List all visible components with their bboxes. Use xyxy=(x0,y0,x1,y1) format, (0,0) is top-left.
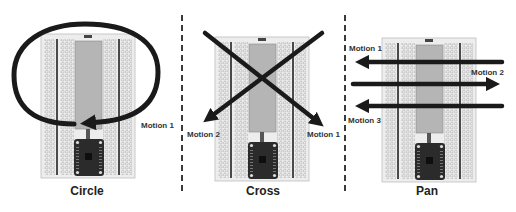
panel-cross-graphic xyxy=(205,33,322,181)
figure-graphics xyxy=(0,0,516,212)
circle-motion-1-label: Motion 1 xyxy=(141,121,174,130)
panel-divider-2 xyxy=(344,15,346,191)
cross-motion-1-label: Motion 1 xyxy=(307,130,340,139)
pan-motion-2-label: Motion 2 xyxy=(471,68,504,77)
cross-motion-2-label: Motion 2 xyxy=(187,130,220,139)
breadboard-circle xyxy=(41,34,135,178)
gesture-motion-figure: Motion 1 Circle Motion 1 Motion 2 Cross … xyxy=(0,0,516,212)
breadboard-pan xyxy=(382,38,476,182)
pan-motion-3-label: Motion 3 xyxy=(348,116,381,125)
panel-divider-1 xyxy=(181,15,183,191)
panel-circle-graphic xyxy=(14,24,158,178)
pan-panel-title: Pan xyxy=(416,184,438,198)
circle-panel-title: Circle xyxy=(70,184,103,198)
pan-motion-1-label: Motion 1 xyxy=(349,44,382,53)
panel-pan-graphic xyxy=(353,38,502,182)
breadboard-cross xyxy=(215,37,309,181)
cross-panel-title: Cross xyxy=(246,184,280,198)
